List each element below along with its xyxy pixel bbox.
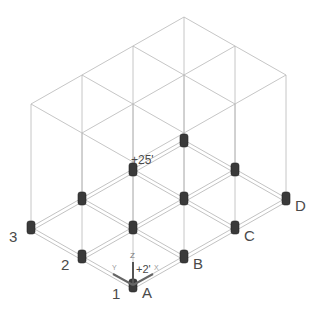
grid-label-A: A — [142, 284, 152, 301]
column-footing-A3 — [27, 221, 35, 234]
grid-label-D: D — [295, 197, 306, 214]
ucs-x-label: X — [154, 264, 159, 271]
grade-beam-line — [82, 173, 235, 260]
roof-beam — [82, 46, 235, 133]
grid-label-3: 3 — [9, 228, 17, 245]
column-footing-D1 — [282, 192, 290, 205]
grade-beam-line — [31, 140, 184, 227]
grid-label-2: 2 — [61, 256, 69, 273]
grid-label-1: 1 — [112, 285, 120, 302]
frame-lines — [31, 17, 286, 287]
column-footing-D3 — [180, 134, 188, 147]
roof-elevation-label: +25' — [131, 153, 154, 167]
grid-labels: 1 2 3 A B C D +25' +2' — [9, 153, 306, 302]
column-footing-D2 — [231, 163, 239, 176]
column-footing-C1 — [231, 221, 239, 234]
grid-label-C: C — [244, 227, 255, 244]
ucs-y-label: Y — [112, 264, 117, 271]
grade-beam-line — [82, 169, 235, 256]
grade-beam-line — [31, 144, 184, 231]
column-footing-C2 — [180, 192, 188, 205]
roof-beam — [31, 17, 184, 104]
column-footing-B3 — [78, 192, 86, 205]
column-footing-B2 — [129, 221, 137, 234]
base-elevation-label: +2' — [136, 263, 151, 275]
grade-beam-line — [133, 202, 286, 289]
roof-beam — [133, 75, 286, 162]
column-footing-B1 — [180, 250, 188, 263]
grade-beam-line — [133, 198, 286, 285]
structural-frame-drawing: 1 2 3 A B C D +25' +2' Z Y X — [0, 0, 317, 312]
diagram-canvas: 1 2 3 A B C D +25' +2' Z Y X — [0, 0, 317, 312]
grid-label-B: B — [193, 255, 203, 272]
ucs-z-label: Z — [130, 251, 135, 260]
column-footing-A2 — [78, 250, 86, 263]
